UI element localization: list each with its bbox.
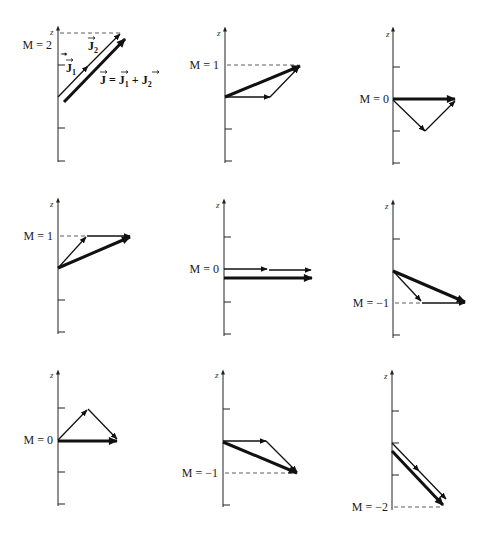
- m-value-label: M = 0: [190, 262, 219, 276]
- j-total-vector: [392, 451, 443, 505]
- vector-diagram: z M = 2 J1 ⃗ J2 J = J1 + J2 z M: [0, 0, 491, 537]
- axis-ticks: [58, 300, 65, 332]
- z-axis-label: z: [384, 201, 389, 211]
- m-value-label: M = 1: [190, 58, 219, 72]
- j-total-vector: [393, 271, 465, 302]
- j2-label: J2: [88, 39, 98, 55]
- m-value-label: M = −1: [182, 466, 218, 480]
- z-axis-label: z: [49, 370, 54, 380]
- m-value-label: M = −1: [353, 296, 389, 310]
- panel-m1-a: z M = 1: [190, 28, 300, 163]
- z-axis-label: z: [383, 371, 388, 381]
- axis-ticks: [224, 237, 231, 334]
- m-value-label: M = 1: [24, 229, 53, 243]
- m-value-label: M = 0: [360, 92, 389, 106]
- panel-m1-b: z M = 1: [24, 199, 130, 334]
- panel-m-minus2: z M = −2: [352, 371, 446, 514]
- z-axis-label: z: [214, 370, 219, 380]
- j2-vector: [425, 101, 455, 131]
- j-sum-label: J = J1 + J2: [100, 73, 152, 89]
- axis-ticks: [392, 411, 399, 475]
- j1-vector: [393, 100, 425, 131]
- panel-m-minus1-b: z M = −1: [182, 370, 297, 507]
- axis-ticks: [393, 239, 400, 335]
- z-axis-label: z: [385, 29, 390, 39]
- j1-label: J1: [66, 61, 76, 77]
- axis-ticks: [393, 67, 400, 163]
- panel-m0-c: z M = 0: [24, 370, 117, 506]
- j-total-vector: [225, 66, 300, 97]
- m-value-label: M = −2: [352, 500, 388, 514]
- panel-m2: z M = 2 J1 ⃗ J2 J = J1 + J2: [23, 27, 159, 162]
- axis-ticks: [58, 408, 65, 504]
- axis-ticks: [225, 129, 232, 161]
- axis-ticks: [58, 65, 65, 161]
- z-axis-label: z: [216, 28, 221, 38]
- m-value-label: M = 2: [23, 38, 52, 52]
- panel-m-minus1-a: z M = −1: [353, 201, 465, 338]
- m-value-label: M = 0: [24, 433, 53, 447]
- j-total-vector: [58, 237, 130, 268]
- axis-ticks: [223, 409, 230, 505]
- z-axis-label: z: [215, 200, 220, 210]
- z-axis-label: z: [49, 27, 54, 37]
- z-axis-label: z: [49, 199, 54, 209]
- j1-arrow-mark: ⃗: [61, 52, 68, 56]
- j1-vector: [58, 410, 87, 440]
- j-total-vector: [223, 442, 297, 473]
- j2-vector: [88, 409, 117, 439]
- panel-m0-b: z M = 0: [190, 200, 312, 336]
- panel-m0-a: z M = 0: [360, 29, 455, 165]
